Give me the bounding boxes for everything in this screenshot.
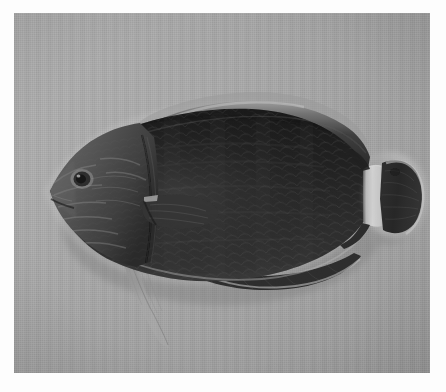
caudal-fin [364, 154, 428, 238]
eye [71, 169, 94, 189]
caudal-fin-spot [390, 168, 400, 176]
fish-illustration [14, 13, 430, 373]
eye-glint [77, 175, 81, 178]
image-canvas [0, 0, 446, 392]
specimen-photograph [14, 13, 430, 373]
fish-specimen [14, 13, 430, 373]
